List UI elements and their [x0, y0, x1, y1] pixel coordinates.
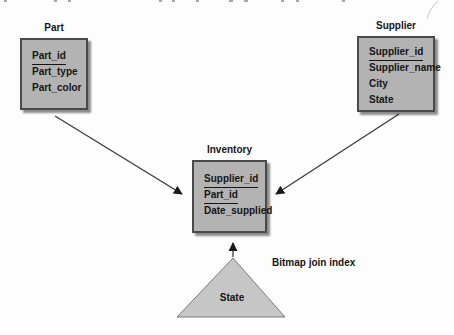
entity-inventory-box: Supplier_id Part_id Date_supplied: [192, 160, 267, 233]
field-supplier-id: Supplier_id: [359, 44, 433, 60]
entity-inventory-title: Inventory: [192, 142, 267, 160]
field-supplier-name: Supplier_name: [359, 60, 433, 76]
entity-supplier-box: Supplier_id Supplier_name City State: [357, 36, 435, 112]
supplier-to-inventory-arrow: [276, 114, 399, 194]
scan-artifact: [427, 1, 438, 19]
entity-supplier: Supplier Supplier_id Supplier_name City …: [357, 18, 435, 112]
field-inventory-part-id: Part_id: [194, 187, 265, 203]
entity-part: Part Part_id Part_type Part_color: [20, 20, 88, 110]
bitmap-index-triangle: [177, 258, 285, 317]
field-part-id: Part_id: [22, 48, 86, 64]
cropped-text-remnants: [4, 0, 345, 2]
field-inventory-supplier-id: Supplier_id: [194, 171, 265, 187]
field-inventory-date-supplied: Date_supplied: [194, 203, 265, 219]
entity-inventory: Inventory Supplier_id Part_id Date_suppl…: [192, 142, 267, 233]
field-supplier-city: City: [359, 76, 433, 92]
field-part-color: Part_color: [22, 80, 86, 96]
field-part-type: Part_type: [22, 64, 86, 80]
bitmap-join-index-annotation: Bitmap join index: [272, 257, 355, 268]
entity-part-title: Part: [20, 20, 88, 38]
field-supplier-state: State: [359, 92, 433, 108]
part-to-inventory-arrow: [55, 116, 182, 194]
entity-supplier-title: Supplier: [357, 18, 435, 36]
entity-part-box: Part_id Part_type Part_color: [20, 38, 88, 110]
index-triangle-label: State: [203, 292, 261, 303]
diagram-canvas: Part Part_id Part_type Part_color Suppli…: [0, 0, 454, 335]
